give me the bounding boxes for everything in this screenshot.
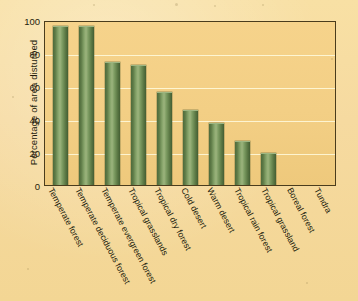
y-tick-60: 60 [14,82,40,93]
bar-slot [203,22,229,185]
bar-slot [229,22,255,185]
bar[interactable] [105,62,120,185]
plot-area [44,21,336,186]
bar-slot [73,22,99,185]
bar-slot [177,22,203,185]
bar[interactable] [79,26,94,185]
bar[interactable] [209,123,224,185]
bar[interactable] [183,110,198,185]
bar-slot-empty [307,22,333,185]
bar-slot [151,22,177,185]
bar[interactable] [235,141,250,185]
bar[interactable] [157,92,172,185]
y-tick-40: 40 [14,115,40,126]
bar-series [45,22,335,185]
bar-slot [125,22,151,185]
bar-slot [47,22,73,185]
y-tick-80: 80 [14,49,40,60]
y-tick-0: 0 [14,181,40,192]
x-axis-labels: Temperate forestTemperate deciduous fore… [44,186,336,301]
bar-slot [281,22,307,185]
y-tick-20: 20 [14,148,40,159]
bar[interactable] [261,153,276,185]
x-axis-label: Tundra [312,186,334,215]
bar-slot [255,22,281,185]
bar[interactable] [131,65,146,185]
y-axis-ticks: 100 80 60 40 20 0 [8,0,40,301]
bar-slot [99,22,125,185]
bar[interactable] [53,26,68,185]
x-axis-label: Cold desert [179,186,209,230]
y-tick-100: 100 [14,16,40,27]
